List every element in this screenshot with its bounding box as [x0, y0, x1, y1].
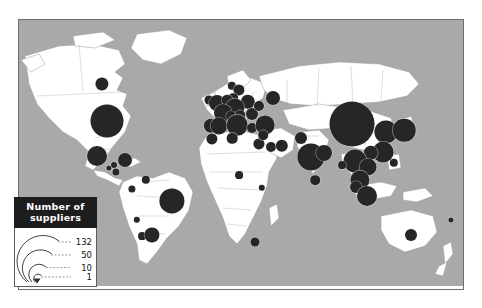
- legend-title-line1: Number of: [16, 201, 95, 212]
- supplier-bubble: [338, 161, 346, 169]
- supplier-bubble: [258, 130, 268, 140]
- legend-value-50: 50: [81, 251, 92, 260]
- legend: Number of suppliers 132: [14, 197, 97, 287]
- legend-title-line2: suppliers: [16, 212, 95, 223]
- legend-value-132: 132: [76, 238, 92, 247]
- legend-title: Number of suppliers: [14, 197, 97, 228]
- supplier-bubble: [295, 132, 307, 144]
- legend-body: 132 50 10 1: [14, 228, 97, 287]
- supplier-bubble: [405, 229, 417, 241]
- supplier-bubble: [393, 119, 416, 142]
- supplier-bubble: [310, 175, 320, 185]
- supplier-bubble: [91, 105, 124, 138]
- supplier-bubble: [357, 186, 377, 206]
- supplier-bubble: [118, 153, 132, 167]
- supplier-bubble: [316, 145, 332, 161]
- supplier-bubble: [227, 133, 238, 144]
- supplier-bubble: [111, 162, 117, 168]
- supplier-bubble: [235, 171, 243, 179]
- supplier-bubble: [211, 118, 228, 135]
- supplier-bubble: [266, 91, 280, 105]
- supplier-bubble: [266, 142, 276, 152]
- legend-value-10: 10: [81, 264, 92, 273]
- supplier-bubble: [254, 101, 264, 111]
- supplier-bubble: [330, 102, 375, 147]
- figure-root: Number of suppliers 132: [0, 0, 482, 308]
- legend-value-1: 1: [87, 273, 92, 282]
- supplier-bubble: [87, 146, 107, 166]
- supplier-bubble: [251, 238, 260, 247]
